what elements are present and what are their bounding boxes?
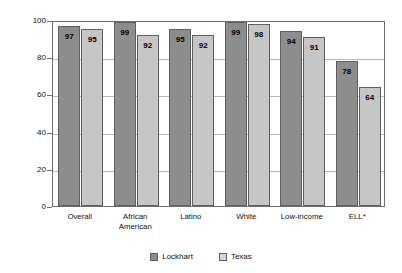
x-axis-label: Latino bbox=[163, 212, 219, 222]
bar-texas-overall: 95 bbox=[81, 29, 103, 206]
y-tick-label: 40 bbox=[22, 129, 46, 137]
x-axis-label-line: Latino bbox=[163, 212, 219, 222]
legend-label: Lockhart bbox=[162, 252, 193, 261]
x-axis-label-line: White bbox=[219, 212, 275, 222]
chart-legend: LockhartTexas bbox=[0, 252, 402, 261]
bar-texas-latino: 92 bbox=[192, 35, 214, 206]
bar-group: 9998 bbox=[220, 22, 276, 206]
bar-group: 9592 bbox=[164, 22, 220, 206]
bar-value-label: 94 bbox=[281, 37, 301, 46]
bar-lockhart-latino: 95 bbox=[169, 29, 191, 206]
bar-lockhart-african-american: 99 bbox=[114, 22, 136, 206]
y-tick-label: 80 bbox=[22, 54, 46, 62]
bar-value-label: 78 bbox=[337, 67, 357, 76]
y-tick-label: 0 bbox=[22, 203, 46, 211]
bar-group: 9992 bbox=[109, 22, 165, 206]
x-axis-label-line: ELL* bbox=[330, 212, 386, 222]
y-tick-label: 20 bbox=[22, 166, 46, 174]
bar-value-label: 64 bbox=[360, 93, 380, 102]
legend-swatch-icon bbox=[150, 253, 158, 261]
legend-item-texas[interactable]: Texas bbox=[219, 252, 252, 261]
bar-value-label: 92 bbox=[193, 41, 213, 50]
x-axis-label: Overall bbox=[52, 212, 108, 222]
y-tick-mark bbox=[47, 207, 52, 208]
bar-value-label: 95 bbox=[170, 35, 190, 44]
x-axis-label: Low-income bbox=[274, 212, 330, 222]
bar-group: 7864 bbox=[331, 22, 387, 206]
bar-value-label: 99 bbox=[226, 28, 246, 37]
x-axis-label-line: American bbox=[108, 222, 164, 232]
bar-value-label: 91 bbox=[304, 43, 324, 52]
bar-value-label: 95 bbox=[82, 35, 102, 44]
x-axis-label-line: African bbox=[108, 212, 164, 222]
bar-group: 9491 bbox=[275, 22, 331, 206]
bar-value-label: 99 bbox=[115, 28, 135, 37]
x-axis-label: ELL* bbox=[330, 212, 386, 222]
legend-label: Texas bbox=[231, 252, 252, 261]
y-tick-label: 100 bbox=[22, 17, 46, 25]
bar-lockhart-ell: 78 bbox=[336, 61, 358, 206]
legend-item-lockhart[interactable]: Lockhart bbox=[150, 252, 193, 261]
bar-value-label: 92 bbox=[138, 41, 158, 50]
bar-lockhart-overall: 97 bbox=[58, 26, 80, 206]
bar-texas-white: 98 bbox=[248, 24, 270, 206]
y-tick-label: 60 bbox=[22, 91, 46, 99]
bar-texas-african-american: 92 bbox=[137, 35, 159, 206]
bar-lockhart-white: 99 bbox=[225, 22, 247, 206]
bar-value-label: 97 bbox=[59, 32, 79, 41]
bar-texas-ell: 64 bbox=[359, 87, 381, 206]
bar-group: 9795 bbox=[53, 22, 109, 206]
x-axis-label-line: Overall bbox=[52, 212, 108, 222]
plot-area: 979599929592999894917864 bbox=[52, 21, 385, 207]
x-axis-label: White bbox=[219, 212, 275, 222]
bar-value-label: 98 bbox=[249, 30, 269, 39]
x-axis-label-line: Low-income bbox=[274, 212, 330, 222]
bar-lockhart-low-income: 94 bbox=[280, 31, 302, 206]
bar-chart: Percentage of students meeting standards… bbox=[0, 0, 402, 273]
bar-texas-low-income: 91 bbox=[303, 37, 325, 206]
x-axis-label: AfricanAmerican bbox=[108, 212, 164, 231]
legend-swatch-icon bbox=[219, 253, 227, 261]
